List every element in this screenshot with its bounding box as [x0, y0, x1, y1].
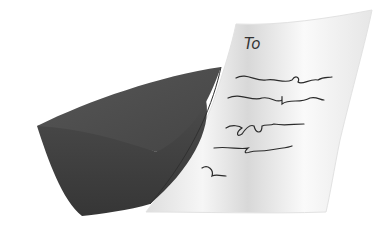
letter-salutation: To: [244, 35, 261, 53]
envelope-letter-illustration: To: [0, 0, 388, 240]
illustration-canvas: To: [0, 0, 388, 240]
